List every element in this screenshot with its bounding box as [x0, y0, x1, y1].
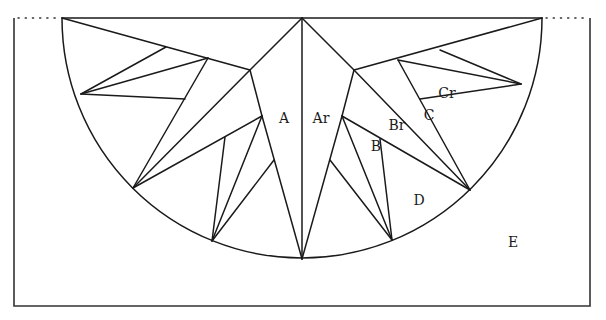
piece-label-b: B	[371, 138, 381, 154]
piece-label-ar: Ar	[312, 110, 330, 126]
piece-label-d: D	[413, 192, 424, 208]
piece-label-cr: Cr	[438, 85, 456, 101]
pattern-line	[81, 58, 208, 94]
pattern-line	[81, 94, 185, 99]
pattern-line	[330, 160, 392, 240]
pattern-line	[302, 116, 342, 259]
pattern-line	[302, 18, 354, 70]
pattern-line	[133, 116, 262, 188]
diagram-canvas: AArBrBCrCDE	[0, 0, 606, 320]
pattern-line	[262, 116, 302, 259]
piece-label-br: Br	[389, 117, 406, 133]
pattern-line	[342, 70, 354, 116]
pattern-line	[81, 47, 166, 94]
piece-label-a: A	[278, 110, 290, 126]
pattern-line	[398, 60, 470, 190]
pattern-line	[250, 70, 262, 116]
pattern-line	[342, 116, 470, 190]
pattern-line	[398, 60, 521, 84]
pattern-segments	[62, 18, 542, 259]
pattern-line	[440, 50, 521, 84]
piece-label-c: C	[424, 107, 435, 123]
pattern-line	[62, 18, 250, 70]
piece-label-e: E	[508, 234, 518, 250]
pattern-line	[420, 84, 521, 99]
pattern-line	[354, 18, 542, 70]
pattern-diagram: AArBrBCrCDE	[0, 0, 606, 320]
pattern-line	[250, 18, 302, 70]
piece-labels: AArBrBCrCDE	[278, 85, 518, 250]
